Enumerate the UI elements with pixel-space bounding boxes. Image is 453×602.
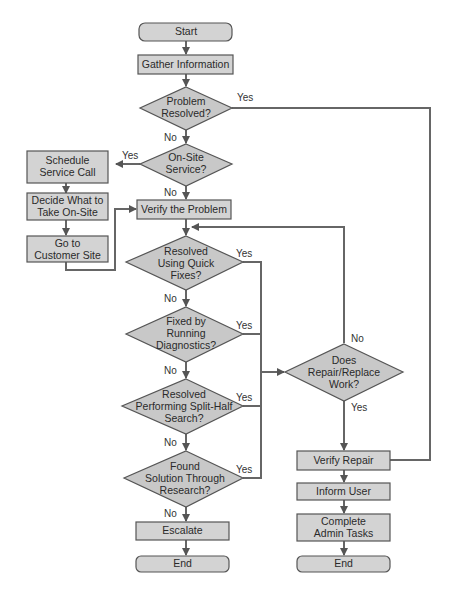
node-gather-information: Gather Information: [138, 55, 233, 74]
node-decide-what-to-take: Decide What to Take On-Site: [27, 193, 108, 220]
edge-label-yes: Yes: [236, 248, 252, 259]
node-problem-resolved: Problem Resolved?: [140, 87, 232, 130]
node-admin-line1: Complete: [321, 515, 366, 527]
node-goto-line2: Customer Site: [34, 249, 101, 261]
node-inform-user: Inform User: [297, 483, 390, 500]
node-schedule-line1: Schedule: [46, 154, 90, 166]
node-schedule-service-call: Schedule Service Call: [27, 151, 108, 183]
edge-label-yes: Yes: [351, 402, 367, 413]
node-end-left-label: End: [173, 557, 192, 569]
node-goto-line1: Go to: [55, 237, 81, 249]
node-onsite-service: On-Site Service?: [140, 144, 232, 186]
node-gather-label: Gather Information: [142, 58, 230, 70]
node-research-line2: Solution Through: [145, 472, 225, 484]
edge-label-yes: Yes: [236, 464, 252, 475]
node-repair-line1: Does: [332, 354, 357, 366]
node-schedule-line2: Service Call: [39, 166, 95, 178]
node-go-to-customer-site: Go to Customer Site: [27, 236, 108, 262]
node-split-line3: Search?: [164, 412, 203, 424]
edge-yes-collector: [243, 262, 261, 478]
node-verify-problem-label: Verify the Problem: [141, 203, 227, 215]
node-quick-line3: Fixes?: [171, 269, 202, 281]
edge-label-no: No: [351, 333, 364, 344]
edge-label-yes: Yes: [236, 320, 252, 331]
edge-label-yes: Yes: [122, 150, 138, 161]
node-split-line1: Resolved: [162, 388, 206, 400]
node-problem-resolved-line2: Resolved?: [161, 107, 211, 119]
edge-label-no: No: [164, 508, 177, 519]
connectors: [66, 41, 430, 555]
node-running-diagnostics: Fixed by Running Diagnostics?: [126, 307, 243, 362]
edge-label-no: No: [164, 365, 177, 376]
node-start: Start: [139, 23, 232, 41]
node-diag-line3: Diagnostics?: [156, 339, 216, 351]
edge-label-no: No: [164, 132, 177, 143]
node-repair-line2: Repair/Replace: [308, 366, 381, 378]
node-diag-line1: Fixed by: [166, 315, 206, 327]
node-research-line3: Research?: [160, 484, 211, 496]
node-verify-repair: Verify Repair: [297, 451, 390, 470]
flowchart-canvas: Start Gather Information Problem Resolve…: [0, 0, 453, 602]
edge-label-yes: Yes: [237, 92, 253, 103]
node-inform-user-label: Inform User: [316, 485, 371, 497]
node-end-right-label: End: [334, 557, 353, 569]
node-escalate-label: Escalate: [162, 524, 202, 536]
node-diag-line2: Running: [166, 327, 205, 339]
node-verify-repair-label: Verify Repair: [313, 454, 374, 466]
node-repair-line3: Work?: [329, 378, 359, 390]
edge-label-yes: Yes: [236, 392, 252, 403]
node-quick-fixes: Resolved Using Quick Fixes?: [126, 236, 243, 290]
node-decide-line1: Decide What to: [32, 194, 104, 206]
edge-label-no: No: [164, 437, 177, 448]
edge-label-no: No: [164, 293, 177, 304]
node-admin-line2: Admin Tasks: [314, 527, 373, 539]
node-end-left: End: [136, 556, 229, 572]
edge-label-no: No: [164, 187, 177, 198]
node-verify-the-problem: Verify the Problem: [137, 200, 231, 219]
node-escalate: Escalate: [136, 522, 229, 540]
node-research: Found Solution Through Research?: [124, 451, 243, 507]
node-problem-resolved-line1: Problem: [166, 95, 205, 107]
node-split-half-search: Resolved Performing Split-Half Search?: [122, 379, 243, 434]
node-complete-admin-tasks: Complete Admin Tasks: [297, 514, 390, 541]
node-split-line2: Performing Split-Half: [136, 400, 233, 412]
node-quick-line2: Using Quick: [158, 257, 215, 269]
node-onsite-line1: On-Site: [168, 151, 204, 163]
node-research-line1: Found: [170, 460, 200, 472]
node-end-right: End: [297, 556, 390, 572]
node-start-label: Start: [175, 25, 197, 37]
node-decide-line2: Take On-Site: [37, 206, 98, 218]
node-repair-replace-work: Does Repair/Replace Work?: [285, 344, 403, 401]
node-quick-line1: Resolved: [164, 245, 208, 257]
node-onsite-line2: Service?: [166, 163, 207, 175]
